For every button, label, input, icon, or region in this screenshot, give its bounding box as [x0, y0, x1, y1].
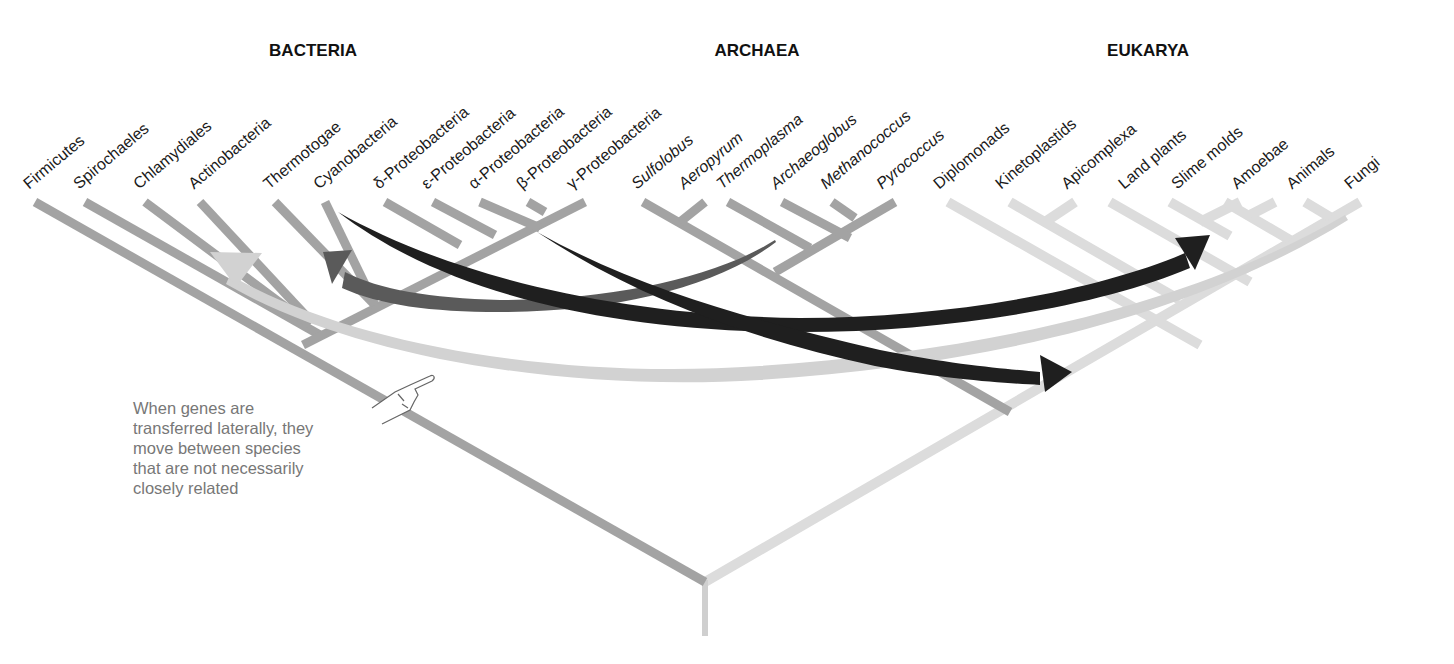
bacteria-branches — [35, 202, 705, 582]
annotation-note: When genes are transferred laterally, th… — [133, 398, 363, 498]
note-line: move between species — [133, 438, 363, 458]
domain-label-bacteria: BACTERIA — [269, 41, 357, 61]
domain-label-archaea: ARCHAEA — [715, 41, 800, 61]
note-line: transferred laterally, they — [133, 418, 363, 438]
note-line: closely related — [133, 478, 363, 498]
tree-canvas — [0, 0, 1454, 664]
domain-label-eukarya: EUKARYA — [1107, 41, 1189, 61]
phylogenetic-tree-diagram: BACTERIA ARCHAEA EUKARYA FirmicutesSpiro… — [0, 0, 1454, 664]
note-line: When genes are — [133, 398, 363, 418]
note-line: that are not necessarily — [133, 458, 363, 478]
